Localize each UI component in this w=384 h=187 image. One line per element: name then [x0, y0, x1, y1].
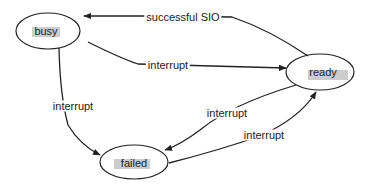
edge-label-ready-failed: interrupt — [205, 108, 249, 119]
node-failed-label: failed — [121, 158, 147, 169]
edge-failed-to-ready — [169, 92, 316, 163]
node-ready-label: ready — [309, 67, 337, 78]
edge-label-successful-sio: successful SIO — [144, 12, 221, 23]
edge-label-failed-ready: interrupt — [242, 130, 286, 141]
edge-label-busy-ready: interrupt — [146, 60, 190, 71]
node-busy-label: busy — [34, 26, 57, 37]
state-diagram: busy ready failed successful SIO interru… — [0, 0, 384, 187]
edge-label-busy-failed: interrupt — [51, 101, 95, 112]
